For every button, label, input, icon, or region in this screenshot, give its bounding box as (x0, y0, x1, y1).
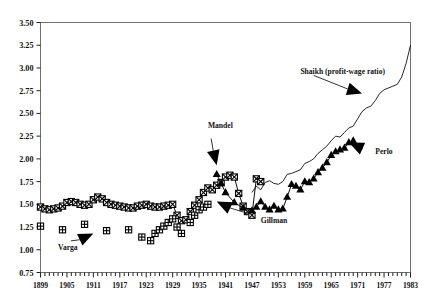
annotation-label: Mandel (208, 121, 233, 130)
x-tick-label: 1965 (324, 281, 339, 290)
annotation-arrowhead (346, 83, 362, 95)
y-tick-label: 2.50 (19, 109, 33, 118)
annotation-label: Varga (58, 243, 78, 252)
y-tick-label: 1.50 (19, 200, 33, 209)
x-tick-label: 1971 (350, 281, 365, 290)
x-tick-label: 1977 (376, 281, 391, 290)
marker-triangle (213, 170, 221, 177)
y-axis-ticks: 0.751.001.251.501.752.002.252.502.753.00… (19, 19, 40, 278)
x-tick-label: 1935 (191, 281, 206, 290)
y-tick-label: 2.00 (19, 155, 33, 164)
marker-triangle (279, 204, 287, 211)
marker-triangle (222, 188, 230, 195)
x-tick-label: 1899 (33, 281, 48, 290)
y-tick-label: 0.75 (19, 269, 33, 278)
annotation-label: Shaikh (profit-wage ratio) (300, 67, 385, 76)
x-tick-label: 1983 (403, 281, 418, 290)
annotation-leader-line (314, 75, 348, 89)
x-tick-label: 1959 (297, 281, 312, 290)
x-tick-label: 1941 (218, 281, 233, 290)
x-tick-label: 1947 (244, 281, 259, 290)
x-axis-ticks: 1899190519111917192319291935194119471953… (33, 273, 418, 290)
x-tick-label: 1923 (139, 281, 154, 290)
x-tick-label: 1911 (86, 281, 101, 290)
annotations-group: Shaikh (profit-wage ratio)MandelPerloGil… (58, 67, 393, 251)
x-tick-label: 1929 (165, 281, 180, 290)
y-tick-label: 3.00 (19, 64, 33, 73)
annotation-leader-line (71, 240, 80, 241)
marker-triangle (349, 136, 357, 143)
chart-container: 0.751.001.251.501.752.002.252.502.753.00… (0, 0, 433, 305)
marker-triangle (283, 193, 291, 200)
y-tick-label: 3.25 (19, 41, 33, 50)
y-tick-label: 2.25 (19, 132, 33, 141)
annotation-leader-line (211, 139, 213, 151)
annotation-label: Gillman (261, 216, 288, 225)
marker-triangle (323, 158, 331, 165)
x-tick-label: 1917 (112, 281, 127, 290)
y-tick-label: 3.50 (19, 19, 33, 28)
annotation-arrowhead (207, 149, 219, 165)
marker-triangle (257, 197, 265, 204)
x-tick-label: 1905 (59, 281, 74, 290)
y-tick-label: 1.00 (19, 246, 33, 255)
annotation-label: Perlo (375, 147, 392, 156)
y-tick-label: 1.75 (19, 178, 33, 187)
y-tick-label: 1.25 (19, 223, 33, 232)
y-tick-label: 2.75 (19, 87, 33, 96)
x-tick-label: 1953 (271, 281, 286, 290)
profit-wage-ratio-line-chart: 0.751.001.251.501.752.002.252.502.753.00… (0, 0, 433, 305)
marker-triangle (270, 202, 278, 209)
